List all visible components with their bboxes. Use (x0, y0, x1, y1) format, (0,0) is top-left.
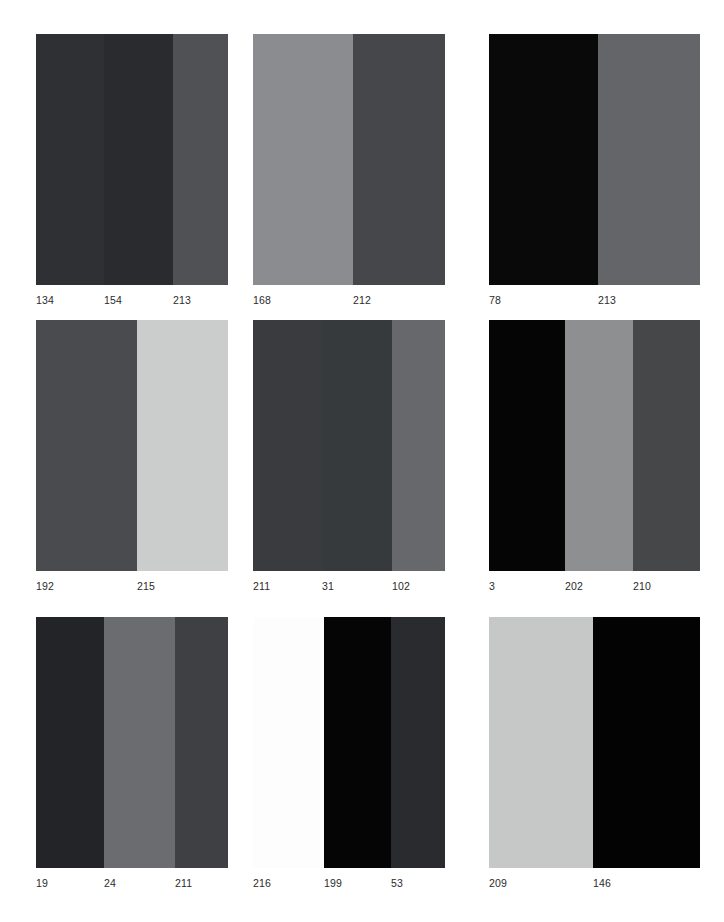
band-value-label: 212 (353, 293, 371, 307)
band-value-label: 154 (104, 293, 122, 307)
band-value-label: 213 (173, 293, 191, 307)
band-label-row: 21131102 (253, 579, 445, 595)
band-value-label: 3 (489, 579, 495, 593)
band-value-label: 53 (391, 876, 403, 890)
band-value-label: 168 (253, 293, 271, 307)
band-value-label: 78 (489, 293, 501, 307)
color-panel: 134154213 (36, 34, 228, 309)
band-value-label: 211 (253, 579, 270, 593)
color-band (36, 320, 137, 571)
color-band (173, 34, 228, 285)
color-band-sheet: 1341542131682127821319221521131102320221… (0, 0, 724, 922)
color-band (489, 617, 593, 868)
band-label-row: 3202210 (489, 579, 700, 595)
band-label-row: 78213 (489, 293, 700, 309)
color-band (36, 34, 104, 285)
color-band-strip (489, 34, 700, 285)
color-band (353, 34, 445, 285)
band-value-label: 211 (175, 876, 192, 890)
color-band (565, 320, 633, 571)
color-band-strip (253, 320, 445, 571)
color-band-strip (489, 617, 700, 868)
color-band (489, 320, 565, 571)
color-band (175, 617, 228, 868)
band-value-label: 31 (322, 579, 334, 593)
band-label-row: 192215 (36, 579, 228, 595)
band-value-label: 192 (36, 579, 54, 593)
band-value-label: 134 (36, 293, 54, 307)
band-label-row: 1924211 (36, 876, 228, 892)
color-band (322, 320, 392, 571)
color-band-strip (36, 34, 228, 285)
band-value-label: 215 (137, 579, 155, 593)
color-band (391, 617, 445, 868)
band-value-label: 146 (593, 876, 611, 890)
color-band (253, 320, 322, 571)
color-band (253, 617, 324, 868)
band-value-label: 210 (633, 579, 651, 593)
band-label-row: 21619953 (253, 876, 445, 892)
band-value-label: 199 (324, 876, 342, 890)
color-band (104, 617, 175, 868)
color-panel: 1924211 (36, 617, 228, 892)
color-band (598, 34, 700, 285)
color-band (593, 617, 700, 868)
color-band (36, 617, 104, 868)
color-band-strip (36, 320, 228, 571)
color-band (253, 34, 353, 285)
band-value-label: 102 (392, 579, 410, 593)
band-label-row: 134154213 (36, 293, 228, 309)
color-panel: 78213 (489, 34, 700, 309)
color-band-strip (489, 320, 700, 571)
band-label-row: 209146 (489, 876, 700, 892)
color-band (324, 617, 391, 868)
band-value-label: 202 (565, 579, 583, 593)
color-band-strip (36, 617, 228, 868)
band-value-label: 24 (104, 876, 116, 890)
color-panel: 168212 (253, 34, 445, 309)
panel-grid: 1341542131682127821319221521131102320221… (0, 0, 724, 922)
color-band (489, 34, 598, 285)
color-band (104, 34, 173, 285)
band-label-row: 168212 (253, 293, 445, 309)
color-band-strip (253, 617, 445, 868)
band-value-label: 209 (489, 876, 507, 890)
color-panel: 21619953 (253, 617, 445, 892)
color-panel: 21131102 (253, 320, 445, 595)
color-band (137, 320, 228, 571)
color-band (392, 320, 445, 571)
color-band-strip (253, 34, 445, 285)
color-band (633, 320, 700, 571)
band-value-label: 213 (598, 293, 616, 307)
band-value-label: 216 (253, 876, 271, 890)
color-panel: 192215 (36, 320, 228, 595)
color-panel: 3202210 (489, 320, 700, 595)
color-panel: 209146 (489, 617, 700, 892)
band-value-label: 19 (36, 876, 48, 890)
